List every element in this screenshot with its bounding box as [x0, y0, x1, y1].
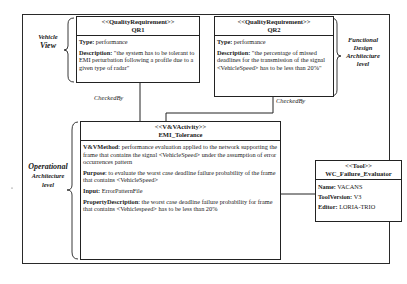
functional-label-line3: Architecture — [338, 52, 388, 60]
activity-body: V&VMethod: performance evaluation applie… — [81, 141, 280, 217]
qr1-type-label: Type: — [79, 38, 94, 45]
qr1-description: Description: "the system has to be toler… — [79, 49, 197, 72]
tool-name-label: Name: — [318, 183, 336, 190]
tool-body: Name: VACANS ToolVersion: V3 Editor: LOR… — [316, 180, 401, 213]
checkedby-line-qr2 — [166, 96, 273, 121]
activity-prop-label: PropertyDescription — [83, 198, 138, 205]
tool-stereotype: <<Tool>> — [316, 162, 401, 170]
qr1-desc-label: Description: — [79, 49, 112, 56]
qr1-type-value: performance — [94, 38, 127, 45]
vehicle-view-label: Vehicle View — [30, 32, 66, 50]
stray-dot — [11, 187, 12, 188]
activity-purpose-label: Purpose — [83, 169, 105, 176]
activity-input-value: ErrorPatternFile — [100, 187, 143, 194]
activity-method: V&VMethod: performance evaluation applie… — [83, 143, 278, 166]
activity-input: Input: ErrorPatternFile — [83, 187, 278, 195]
activity-header: <<V&VActivity>> EMI_Tolerance — [81, 122, 280, 141]
qr2-type: Type: performance — [217, 38, 331, 46]
activity-purpose: Purpose: to evaluate the worst case dead… — [83, 169, 278, 184]
checkedby-label-1: CheckedBy — [94, 94, 123, 101]
qr1-body: Type: performance Description: "the syst… — [77, 36, 199, 75]
tool-version-row: ToolVersion: V3 — [318, 192, 399, 202]
checkedby-label-2: CheckedBy — [276, 97, 305, 104]
activity-input-label: Input: — [83, 187, 100, 194]
qr2-header: <<QualityRequirement>> QR2 — [215, 17, 333, 36]
functional-label-line2: Design — [338, 44, 388, 52]
tool-name-row: Name: VACANS — [318, 182, 399, 192]
tool-version-label: ToolVersion: — [318, 193, 352, 200]
qr2-desc-label: Description: — [217, 49, 250, 56]
qr2-box[interactable]: <<QualityRequirement>> QR2 Type: perform… — [214, 16, 334, 97]
qr2-type-value: performance — [232, 38, 265, 45]
tool-editor-row: Editor: LORIA-TRIO — [318, 202, 399, 212]
qr1-type: Type: performance — [79, 38, 197, 46]
tool-header: <<Tool>> WC_Failure_Evaluator — [316, 161, 401, 180]
tool-box[interactable]: <<Tool>> WC_Failure_Evaluator Name: VACA… — [315, 160, 402, 222]
qr2-stereotype: <<QualityRequirement>> — [215, 18, 333, 26]
qr1-stereotype: <<QualityRequirement>> — [77, 18, 199, 26]
functional-label-line4: level — [338, 60, 388, 68]
vehicle-label-line1: Vehicle — [30, 32, 66, 41]
qr1-header: <<QualityRequirement>> QR1 — [77, 17, 199, 36]
brace-vehicle — [64, 18, 74, 82]
activity-box[interactable]: <<V&VActivity>> EMI_Tolerance V&VMethod:… — [80, 121, 281, 260]
activity-purpose-value: : to evaluate the worst case deadline fa… — [83, 169, 276, 184]
brace-operational — [67, 122, 78, 259]
tool-editor-value: LORIA-TRIO — [338, 203, 376, 210]
operational-label-line1: Operational — [24, 162, 72, 171]
tool-name: WC_Failure_Evaluator — [316, 170, 401, 178]
activity-property: PropertyDescription: the worst case dead… — [83, 198, 278, 213]
qr2-name: QR2 — [215, 26, 333, 34]
qr1-name: QR1 — [77, 26, 199, 34]
tool-name-value: VACANS — [336, 183, 363, 190]
activity-stereotype: <<V&VActivity>> — [81, 123, 280, 131]
qr2-body: Type: performance Description: "the perc… — [215, 36, 333, 75]
activity-name: EMI_Tolerance — [81, 131, 280, 139]
activity-method-label: V&VMethod — [83, 143, 118, 150]
operational-level-label: Operational Architecture level — [24, 162, 72, 189]
tool-version-value: V3 — [352, 193, 361, 200]
qr2-type-label: Type: — [217, 38, 232, 45]
functional-label-line1: Functional — [338, 36, 388, 44]
qr2-description: Description: "the percentage of missed d… — [217, 49, 331, 72]
vehicle-label-line2: View — [30, 41, 66, 50]
operational-label-line3: level — [24, 180, 72, 189]
functional-level-label: Functional Design Architecture level — [338, 36, 388, 68]
qr1-box[interactable]: <<QualityRequirement>> QR1 Type: perform… — [76, 16, 200, 83]
tool-editor-label: Editor: — [318, 203, 338, 210]
operational-label-line2: Architecture — [24, 171, 72, 180]
